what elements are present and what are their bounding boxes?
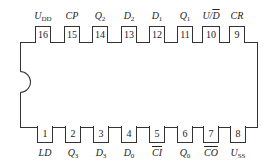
pin-8: 8 [230, 126, 246, 143]
orientation-notch [20, 71, 31, 93]
pin-11: 11 [177, 26, 193, 43]
pin-14: 14 [92, 26, 108, 43]
pin-5-label: CI [142, 147, 172, 159]
pin-6: 6 [177, 126, 193, 143]
pin-7-label: CO [196, 147, 226, 159]
pin-1-label: LD [30, 147, 60, 159]
pin-7: 7 [203, 126, 219, 143]
pin-13-label: D2 [114, 10, 144, 25]
pin-12-label: D1 [142, 10, 172, 25]
pin-16-label: UDD [28, 10, 58, 25]
pin-13: 13 [121, 26, 137, 43]
pin-5: 5 [149, 126, 165, 143]
pin-4: 4 [121, 126, 137, 143]
pin-16: 16 [35, 26, 51, 43]
pin-2: 2 [65, 126, 81, 143]
ic-body [20, 42, 258, 128]
pin-9: 9 [229, 26, 245, 43]
pin-15: 15 [64, 26, 80, 43]
pin-14-label: Q2 [85, 10, 115, 25]
pin-15-label: CP [57, 10, 87, 22]
pin-8-label: USS [223, 147, 253, 162]
pin-3-label: D3 [86, 147, 116, 162]
pin-4-label: D0 [114, 147, 144, 162]
pin-10: 10 [202, 26, 220, 43]
pin-9-label: CR [222, 10, 252, 22]
pin-3: 3 [93, 126, 109, 143]
pin-2-label: Q3 [58, 147, 88, 162]
pin-1: 1 [37, 126, 53, 143]
pin-12: 12 [149, 26, 165, 43]
